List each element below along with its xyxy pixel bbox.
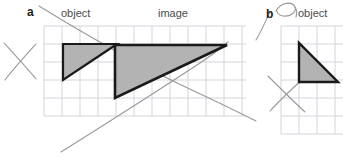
caption-image: image [158, 8, 188, 19]
part-label-a: a [27, 6, 34, 18]
shape-layer [63, 43, 338, 98]
figure-canvas: a b object image object [0, 0, 343, 157]
marker-b-loop [276, 3, 295, 16]
marker-b-loop-tail [295, 7, 297, 17]
part-label-b: b [266, 8, 273, 20]
figure-svg [0, 0, 343, 157]
cross-mark-left-stroke1 [4, 43, 36, 79]
caption-object-left: object [61, 8, 90, 19]
image-triangle [115, 45, 227, 98]
caption-object-right: object [298, 8, 327, 19]
